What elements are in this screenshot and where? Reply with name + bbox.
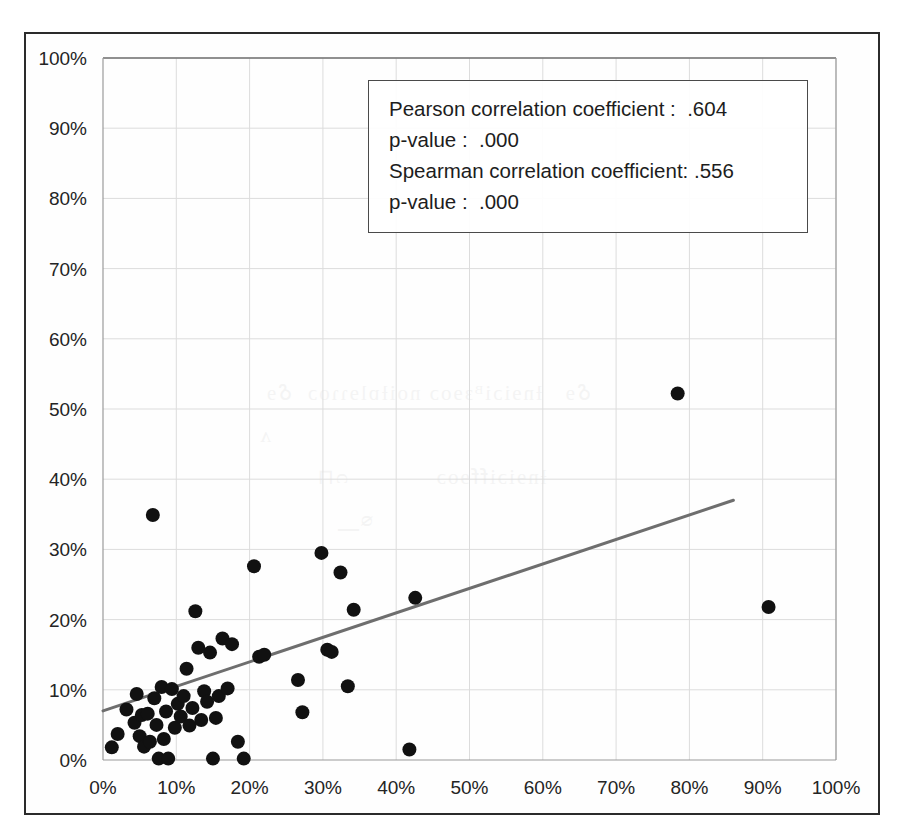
data-point-marker [203, 646, 217, 660]
data-point-marker [231, 735, 245, 749]
data-point-marker [111, 727, 125, 741]
x-axis-tick-label: 30% [304, 777, 342, 798]
data-point-marker [165, 682, 179, 696]
data-point-marker [671, 387, 685, 401]
data-point-marker [762, 600, 776, 614]
y-axis-tick-label: 100% [38, 48, 87, 69]
data-point-marker [130, 687, 144, 701]
data-point-marker [402, 742, 416, 756]
data-point-marker [194, 713, 208, 727]
data-point-marker [314, 546, 328, 560]
y-axis-tick-label: 70% [49, 259, 87, 280]
data-point-marker [347, 603, 361, 617]
statistics-annotation-box: Pearson correlation coefficient : .604 p… [368, 80, 808, 233]
data-point-marker [221, 681, 235, 695]
data-point-marker [247, 559, 261, 573]
data-point-marker [237, 752, 251, 766]
x-axis-tick-label: 70% [597, 777, 635, 798]
x-axis-tick-labels: 0%10%20%30%40%50%60%70%80%90%100% [89, 777, 860, 798]
data-point-marker [188, 604, 202, 618]
y-axis-tick-label: 30% [49, 539, 87, 560]
data-point-marker [225, 637, 239, 651]
y-axis-tick-label: 0% [60, 750, 88, 771]
data-point-marker [159, 705, 173, 719]
x-axis-tick-label: 90% [744, 777, 782, 798]
x-axis-tick-label: 10% [157, 777, 195, 798]
data-point-marker [257, 648, 271, 662]
data-point-marker [141, 707, 155, 721]
data-point-marker [180, 662, 194, 676]
x-axis-tick-label: 100% [812, 777, 861, 798]
y-axis-tick-label: 10% [49, 680, 87, 701]
data-point-markers [105, 387, 776, 766]
x-axis-tick-label: 0% [89, 777, 117, 798]
data-point-marker [206, 752, 220, 766]
data-point-marker [295, 705, 309, 719]
x-axis-tick-label: 60% [524, 777, 562, 798]
spearman-pvalue-line: p-value : .000 [389, 186, 791, 217]
data-point-marker [333, 566, 347, 580]
y-axis-tick-label: 40% [49, 469, 87, 490]
data-point-marker [119, 702, 133, 716]
y-axis-tick-label: 90% [49, 118, 87, 139]
data-point-marker [291, 673, 305, 687]
data-point-marker [150, 718, 164, 732]
x-axis-tick-label: 40% [377, 777, 415, 798]
data-point-marker [177, 689, 191, 703]
data-point-marker [209, 711, 223, 725]
pearson-coefficient-line: Pearson correlation coefficient : .604 [389, 93, 791, 124]
data-point-marker [157, 732, 171, 746]
data-point-marker [105, 740, 119, 754]
data-point-marker [325, 645, 339, 659]
y-axis-tick-label: 80% [49, 188, 87, 209]
data-point-marker [185, 701, 199, 715]
data-point-marker [146, 508, 160, 522]
data-point-marker [143, 735, 157, 749]
y-axis-tick-label: 50% [49, 399, 87, 420]
x-axis-tick-label: 50% [450, 777, 488, 798]
data-point-marker [161, 752, 175, 766]
pearson-pvalue-line: p-value : .000 [389, 124, 791, 155]
data-point-marker [341, 679, 355, 693]
y-axis-tick-label: 20% [49, 610, 87, 631]
y-axis-tick-label: 60% [49, 329, 87, 350]
x-axis-tick-label: 20% [231, 777, 269, 798]
spearman-coefficient-line: Spearman correlation coefficient: .556 [389, 155, 791, 186]
data-point-marker [408, 591, 422, 605]
x-axis-tick-label: 80% [670, 777, 708, 798]
y-axis-tick-labels: 0%10%20%30%40%50%60%70%80%90%100% [38, 48, 87, 771]
